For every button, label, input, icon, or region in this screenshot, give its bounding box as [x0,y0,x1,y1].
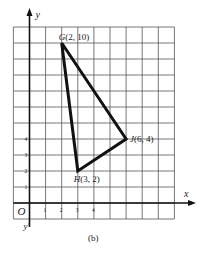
y-tick-label: 1 [25,184,28,190]
labels: yxy'O12341234G(2, 10)J(6, 4)H(3, 2)(b) [18,9,190,243]
y-tick-label: 4 [25,136,28,142]
vertex-label-j: J(6, 4) [130,134,154,144]
coordinate-plane-figure: yxy'O12341234G(2, 10)J(6, 4)H(3, 2)(b) [0,0,201,260]
vertex-label-g: G(2, 10) [59,32,89,42]
x-tick-label: 2 [60,207,63,213]
vertex-label-h: H(3, 2) [73,174,100,184]
grid [13,27,174,219]
origin-label: O [18,205,26,217]
x-axis-label: x [183,188,189,199]
x-tick-label: 1 [44,207,47,213]
y-tick-label: 2 [25,168,28,174]
y-tick-label: 3 [25,152,28,158]
y-neg-axis-label: y' [23,221,31,231]
figure-caption: (b) [88,233,99,243]
x-axis-arrow-icon [188,200,196,206]
x-tick-label: 4 [92,207,95,213]
x-tick-label: 3 [76,207,79,213]
axes [13,8,196,227]
y-axis-arrow-icon [27,8,33,16]
y-axis-label: y [35,9,41,20]
